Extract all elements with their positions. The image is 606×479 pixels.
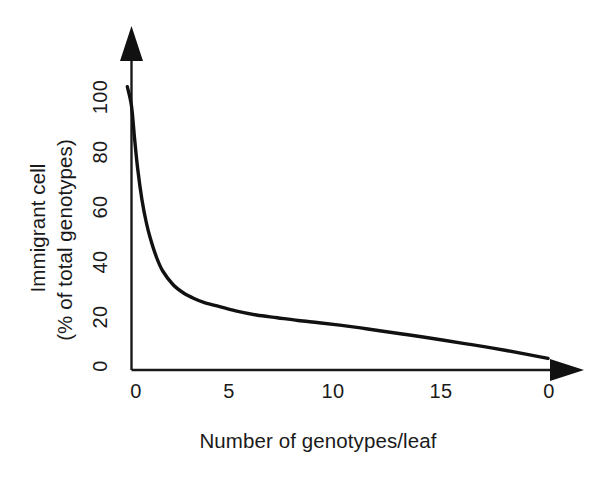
y-tick-label-40: 40 bbox=[89, 250, 111, 273]
x-tick-label-10: 10 bbox=[321, 380, 344, 402]
x-tick-label-5: 5 bbox=[223, 380, 235, 402]
y-tick-label-60: 60 bbox=[89, 195, 111, 218]
chart-svg: 0 5 10 15 0 0 20 40 60 80 100 Immigrant … bbox=[0, 0, 606, 479]
y-tick-label-0: 0 bbox=[89, 360, 111, 372]
y-tick-label-20: 20 bbox=[89, 305, 111, 328]
y-tick-label-100: 100 bbox=[89, 80, 111, 115]
y-axis-title-line2: (% of total genotypes) bbox=[53, 139, 76, 341]
chart-background bbox=[0, 0, 606, 479]
y-axis-title-line1: Immigrant cell bbox=[26, 164, 49, 293]
x-axis-title: Number of genotypes/leaf bbox=[199, 429, 436, 452]
x-tick-label-20: 0 bbox=[543, 380, 555, 402]
chart-figure: 0 5 10 15 0 0 20 40 60 80 100 Immigrant … bbox=[0, 0, 606, 479]
x-tick-label-0: 0 bbox=[130, 380, 142, 402]
x-tick-label-15: 15 bbox=[429, 380, 452, 402]
y-tick-label-80: 80 bbox=[89, 140, 111, 163]
